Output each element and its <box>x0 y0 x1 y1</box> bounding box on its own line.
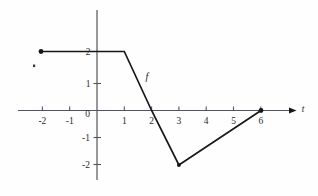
y-tick-label--2: -2 <box>82 160 90 170</box>
x-tick-label-1: 1 <box>122 116 127 126</box>
function-curve-f <box>41 52 261 166</box>
x-tick-label-2: 2 <box>149 116 154 126</box>
x-axis <box>18 107 297 114</box>
x-tick-label-4: 4 <box>204 116 209 126</box>
graph-figure: -2 -1 0 1 2 3 4 5 6 2 1 -1 -2 t f <box>0 0 318 196</box>
x-tick-label--2: -2 <box>38 116 46 126</box>
x-axis-label-t: t <box>302 104 305 114</box>
x-tick-label-0: 0 <box>85 109 90 119</box>
x-axis-arrow-icon <box>289 108 297 114</box>
graph-canvas: -2 -1 0 1 2 3 4 5 6 2 1 -1 -2 t f <box>0 0 318 196</box>
vertex-dot-minimum <box>177 163 181 167</box>
y-tick-label-1: 1 <box>86 79 91 89</box>
y-tick-label-2: 2 <box>86 47 91 57</box>
y-tick-label--1: -1 <box>82 133 90 143</box>
curve-label-f: f <box>146 71 150 82</box>
y-axis <box>94 10 102 180</box>
scan-speck <box>33 65 35 68</box>
x-tick-label-6: 6 <box>258 116 263 126</box>
x-tick-label-5: 5 <box>231 116 236 126</box>
endpoint-dot-right <box>259 108 264 113</box>
endpoint-dot-left <box>39 49 44 54</box>
x-tick-label-3: 3 <box>177 116 182 126</box>
x-tick-label--1: -1 <box>66 116 74 126</box>
